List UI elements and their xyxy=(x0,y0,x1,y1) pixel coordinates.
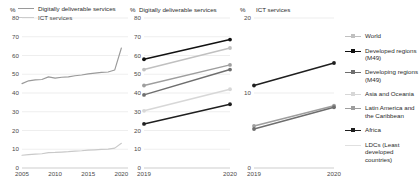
y-axis-tick-label: 20 xyxy=(12,127,19,134)
legend-item-label: Developing regions (M49) xyxy=(365,68,420,83)
x-axis-tick-label: 2019 xyxy=(247,170,261,177)
legend-item[interactable]: Latin America and the Caribbean xyxy=(345,104,420,119)
series-data-point xyxy=(142,84,146,88)
x-axis-tick-label: 2015 xyxy=(81,170,95,177)
legend-marker-icon xyxy=(345,142,361,149)
y-axis-tick-label: 60 xyxy=(134,52,141,59)
legend-marker-icon xyxy=(345,69,361,76)
legend-item-digitally-deliverable: Digitally deliverable services xyxy=(18,4,116,12)
series-data-point xyxy=(332,61,336,65)
legend-item-label: Africa xyxy=(365,126,381,134)
series-data-point xyxy=(332,105,336,109)
mid-plot-area: 0102030405060708020192020 xyxy=(130,14,242,190)
x-axis-tick-label: 2020 xyxy=(223,170,237,177)
legend-marker-icon xyxy=(345,127,361,134)
series-data-point xyxy=(142,57,146,61)
series-line xyxy=(254,63,334,86)
legend-item[interactable]: Developing regions (M49) xyxy=(345,68,420,83)
legend-item-label: Asia and Oceania xyxy=(365,90,414,98)
series-line xyxy=(144,40,230,60)
y-axis-tick-label: 50 xyxy=(134,70,141,77)
series-line xyxy=(144,48,230,70)
legend-marker-icon xyxy=(345,91,361,98)
series-line xyxy=(22,48,121,84)
legend-item-label: Developed regions (M49) xyxy=(365,47,420,62)
legend-item-label: World xyxy=(365,32,381,40)
legend-item[interactable]: Africa xyxy=(345,126,420,134)
right-axis-unit: % xyxy=(240,6,246,13)
series-data-point xyxy=(142,68,146,72)
y-axis-tick-label: 70 xyxy=(12,33,19,40)
right-panel-title: ICT services xyxy=(256,6,290,13)
legend-marker-icon xyxy=(345,48,361,55)
legend-item[interactable]: Developed regions (M49) xyxy=(345,47,420,62)
legend-item[interactable]: LDCs (Least developed countries) xyxy=(345,141,420,164)
y-axis-tick-label: 80 xyxy=(12,14,19,21)
legend-marker-icon xyxy=(345,33,361,40)
series-data-point xyxy=(228,46,232,50)
y-axis-tick-label: 10 xyxy=(244,89,251,96)
series-legend: WorldDeveloped regions (M49)Developing r… xyxy=(345,32,420,170)
x-axis-tick-label: 2020 xyxy=(114,170,128,177)
legend-item-label: Latin America and the Caribbean xyxy=(365,104,420,119)
right-plot-area: 0102020192020 xyxy=(240,14,344,190)
left-axis-unit: % xyxy=(10,6,16,13)
panel-left-timeseries: % Digitally deliverable services ICT ser… xyxy=(0,0,134,190)
x-axis-tick-label: 2020 xyxy=(327,170,341,177)
legend-item[interactable]: World xyxy=(345,32,420,40)
legend-item[interactable]: Asia and Oceania xyxy=(345,90,420,98)
y-axis-tick-label: 40 xyxy=(12,89,19,96)
series-data-point xyxy=(228,38,232,42)
legend-marker-icon xyxy=(345,105,361,112)
x-axis-tick-label: 2010 xyxy=(48,170,62,177)
y-axis-tick-label: 30 xyxy=(134,108,141,115)
legend-item-label: LDCs (Least developed countries) xyxy=(365,141,420,164)
legend-swatch-line xyxy=(18,8,34,9)
y-axis-tick-label: 20 xyxy=(244,14,251,21)
series-data-point xyxy=(252,84,256,88)
y-axis-tick-label: 20 xyxy=(134,127,141,134)
series-data-point xyxy=(228,63,232,67)
series-data-point xyxy=(228,102,232,106)
legend-label: Digitally deliverable services xyxy=(38,5,116,12)
series-line xyxy=(254,107,334,129)
series-line xyxy=(254,106,334,126)
series-data-point xyxy=(142,122,146,126)
y-axis-tick-label: 70 xyxy=(134,33,141,40)
y-axis-tick-label: 60 xyxy=(12,52,19,59)
y-axis-tick-label: 40 xyxy=(134,89,141,96)
y-axis-tick-label: 30 xyxy=(12,108,19,115)
y-axis-tick-label: 10 xyxy=(12,145,19,152)
series-data-point xyxy=(142,93,146,97)
panel-mid-digitally-deliverable: % Digitally deliverable services 0102030… xyxy=(130,0,242,190)
y-axis-tick-label: 80 xyxy=(134,14,141,21)
series-data-point xyxy=(252,127,256,131)
figure-container: % Digitally deliverable services ICT ser… xyxy=(0,0,420,190)
x-axis-tick-label: 2019 xyxy=(137,170,151,177)
panel-right-ict-services: % ICT services 0102020192020 xyxy=(240,0,344,190)
y-axis-tick-label: 10 xyxy=(134,145,141,152)
series-data-point xyxy=(228,87,232,91)
left-plot-area: 010203040506070802005201020152020 xyxy=(0,14,134,190)
x-axis-tick-label: 2005 xyxy=(15,170,29,177)
mid-axis-unit: % xyxy=(130,6,136,13)
mid-panel-title: Digitally deliverable services xyxy=(139,6,217,13)
series-data-point xyxy=(228,68,232,72)
y-axis-tick-label: 50 xyxy=(12,70,19,77)
series-data-point xyxy=(142,109,146,113)
